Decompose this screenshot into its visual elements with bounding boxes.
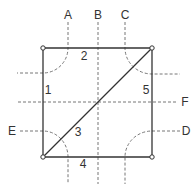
edge-label-2: 2 [81, 49, 88, 63]
label-f: F [181, 95, 188, 109]
node-bottom-left [41, 155, 45, 159]
label-d: D [182, 124, 191, 138]
square-diagonal-diagram: A B C E D F 1 2 3 4 5 [0, 0, 196, 188]
edge-label-5: 5 [143, 83, 150, 97]
edge-label-3: 3 [75, 125, 82, 139]
edge-label-4: 4 [80, 157, 87, 171]
node-bottom-right [150, 155, 154, 159]
node-top-right [150, 46, 154, 50]
label-a: A [64, 8, 72, 22]
label-c: C [121, 8, 130, 22]
node-top-left [41, 46, 45, 50]
label-e: E [8, 124, 16, 138]
edge-label-1: 1 [45, 83, 52, 97]
label-b: B [94, 8, 102, 22]
